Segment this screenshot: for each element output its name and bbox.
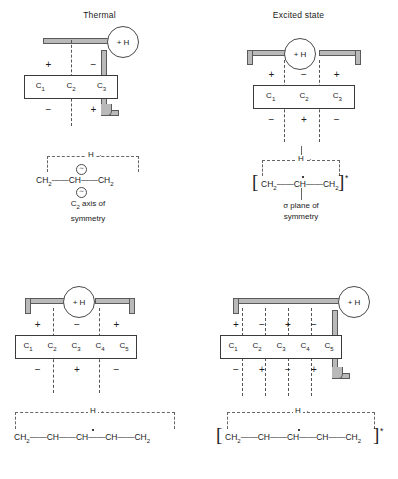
carbon-box-thermal-pentadienyl: C1 C2 C3 C4 C5 bbox=[15, 335, 137, 359]
sign-row-bottom: − + bbox=[26, 104, 116, 116]
structure-excited-triene: H · [ CH2——CH——CH2 ] * σ plane of symmet… bbox=[199, 152, 398, 232]
structure-excited-pentadienyl: H · [ CH2——CH——CH——CH——CH2 ] * bbox=[199, 406, 398, 466]
hydrogen-label: + H bbox=[117, 38, 130, 47]
carbon-label-c5: C5 bbox=[119, 342, 128, 352]
carbon-label-c2: C2 bbox=[47, 342, 56, 352]
sign-bottom-1: + bbox=[74, 365, 80, 375]
h-radical-dot: · bbox=[306, 408, 309, 416]
bridging-hydrogen-label: H bbox=[86, 151, 96, 159]
sign-bottom-3: + bbox=[311, 365, 317, 375]
central-radical-dot bbox=[302, 176, 304, 178]
h-bond-hook-left bbox=[25, 298, 31, 314]
carbon-label-c1: C1 bbox=[266, 92, 275, 102]
sign-row-bottom: − + − + bbox=[223, 364, 327, 376]
sign-bottom-2: − bbox=[285, 365, 291, 375]
panel-title-thermal: Thermal bbox=[0, 10, 199, 20]
carbon-box-excited-pentadienyl: C1 C2 C3 C4 C5 bbox=[220, 335, 342, 359]
sign-top-0: + bbox=[268, 70, 274, 80]
carbon-box-thermal-triene: C1 C2 C3 bbox=[24, 75, 118, 99]
sign-bottom-0: − bbox=[35, 365, 41, 375]
hydrogen-circle-excited: + H bbox=[284, 38, 316, 70]
sign-top-1: − bbox=[301, 70, 307, 80]
sign-row-top: + − + bbox=[255, 69, 353, 81]
bridging-hydrogen-label: H bbox=[296, 155, 306, 163]
sign-row-bottom: − + − bbox=[255, 114, 353, 126]
structure-thermal-triene: H · CH2——CH——CH2 ∼ ∼ C2 axis of symmetry bbox=[0, 150, 199, 230]
panel-title-excited: Excited state bbox=[199, 10, 398, 20]
excited-state-asterisk: * bbox=[345, 173, 348, 183]
symmetry-line-1: σ plane of bbox=[251, 200, 351, 211]
h-radical-dot: · bbox=[101, 408, 104, 416]
hydrogen-circle-thermal-pentadienyl: + H bbox=[63, 286, 95, 318]
h-radical-dot: · bbox=[309, 156, 312, 164]
h-bond-band-left-arm bbox=[25, 298, 65, 304]
carbon-label-c3: C3 bbox=[276, 342, 285, 352]
sign-row-top: + − + − bbox=[223, 319, 327, 331]
c2-axis-marker-bottom: ∼ bbox=[76, 187, 87, 198]
h-bond-band-top bbox=[43, 38, 115, 44]
carbon-label-c1: C1 bbox=[36, 82, 45, 92]
sign-row-top: + − + bbox=[18, 319, 136, 331]
mo-diagram-excited-triene: + H + − + C1 C2 C3 − + − bbox=[199, 38, 398, 148]
structure-thermal-pentadienyl: H · CH2——CH——CH——CH——CH2 bbox=[0, 406, 199, 466]
formula-allyl-excited: CH2——CH——CH2 bbox=[261, 179, 339, 191]
panel-thermal-triene: Thermal + H + − C1 C2 C3 − + bbox=[0, 0, 199, 250]
hydrogen-circle-thermal: + H bbox=[107, 26, 139, 58]
carbon-label-c2: C2 bbox=[252, 342, 261, 352]
sign-bottom-2: − bbox=[113, 365, 119, 375]
sign-bottom-0: − bbox=[46, 105, 52, 115]
sign-top-1: − bbox=[91, 60, 97, 70]
carbon-label-c3: C3 bbox=[71, 342, 80, 352]
sign-row-top: + − bbox=[26, 59, 116, 71]
formula-pentadienyl-excited: CH2——CH——CH——CH——CH2 bbox=[225, 432, 361, 444]
symmetry-line-2: symmetry bbox=[251, 211, 351, 222]
sign-row-bottom: − + − bbox=[18, 364, 136, 376]
carbon-label-c5: C5 bbox=[324, 342, 333, 352]
central-radical-dot bbox=[92, 429, 94, 431]
hydrogen-circle-excited-pentadienyl: + H bbox=[338, 286, 370, 318]
carbon-label-c1: C1 bbox=[228, 342, 237, 352]
carbon-box-excited-triene: C1 C2 C3 bbox=[253, 85, 355, 109]
sign-bottom-1: + bbox=[91, 105, 97, 115]
symmetry-line-1: C2 axis of bbox=[38, 198, 138, 213]
sign-top-1: − bbox=[259, 320, 265, 330]
bracket-right: ] bbox=[338, 172, 344, 191]
sign-bottom-2: − bbox=[334, 115, 340, 125]
sign-top-2: + bbox=[334, 70, 340, 80]
sign-top-2: + bbox=[113, 320, 119, 330]
panel-excited-pentadienyl: + H + − + − C1 C2 C3 C4 C5 − + − + H · bbox=[199, 278, 398, 479]
hydrogen-label: + H bbox=[73, 298, 86, 307]
excited-state-asterisk: * bbox=[380, 426, 383, 436]
sign-top-0: + bbox=[46, 60, 52, 70]
sign-bottom-1: + bbox=[259, 365, 265, 375]
bridging-hydrogen-label: H bbox=[293, 407, 303, 415]
c2-axis-marker-top: ∼ bbox=[76, 164, 87, 175]
sign-top-2: + bbox=[285, 320, 291, 330]
bracket-left: [ bbox=[216, 425, 222, 444]
hydrogen-label: + H bbox=[294, 50, 307, 59]
sign-top-3: − bbox=[311, 320, 317, 330]
sign-bottom-0: − bbox=[233, 365, 239, 375]
symmetry-label-thermal: C2 axis of symmetry bbox=[38, 198, 138, 224]
symmetry-line-2: symmetry bbox=[38, 213, 138, 224]
h-bond-hook-right bbox=[129, 298, 135, 314]
carbon-label-c3: C3 bbox=[333, 92, 342, 102]
h-bond-band-left-arm bbox=[247, 50, 289, 56]
h-bond-hook-right bbox=[355, 50, 361, 65]
sigma-plane-stem-lower bbox=[301, 188, 302, 200]
formula-allyl-thermal: CH2——CH——CH2 bbox=[36, 175, 114, 187]
h-bond-hook-left bbox=[247, 50, 253, 65]
carbon-label-c1: C1 bbox=[23, 342, 32, 352]
bracket-left: [ bbox=[252, 172, 258, 191]
bracket-right: ] bbox=[373, 425, 379, 444]
formula-pentadienyl-thermal: CH2——CH——CH——CH——CH2 bbox=[14, 432, 150, 444]
sign-top-1: − bbox=[74, 320, 80, 330]
sign-top-0: + bbox=[233, 320, 239, 330]
h-bond-corner bbox=[332, 367, 343, 379]
panel-excited-triene: Excited state + H + − + C1 C2 C3 − + − bbox=[199, 0, 398, 250]
central-radical-dot bbox=[298, 429, 300, 431]
carbon-label-c3: C3 bbox=[97, 82, 106, 92]
mo-diagram-excited-pentadienyl: + H + − + − C1 C2 C3 C4 C5 − + − + bbox=[199, 286, 398, 401]
panel-thermal-pentadienyl: + H + − + C1 C2 C3 C4 C5 − + − H · CH2——… bbox=[0, 278, 199, 479]
sign-top-0: + bbox=[35, 320, 41, 330]
